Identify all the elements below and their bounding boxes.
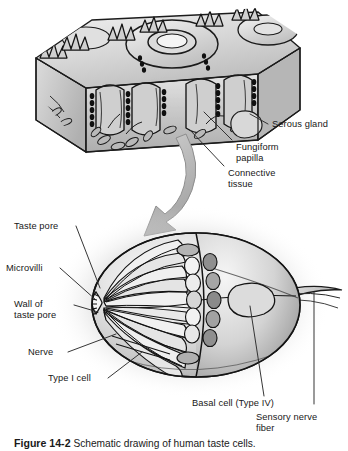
tissue-block-group — [36, 5, 315, 152]
label-microvilli: Microvilli — [6, 263, 43, 274]
label-wall-of-taste-pore: Wall of taste pore — [14, 299, 56, 320]
label-serous-gland: Serous gland — [272, 119, 328, 130]
caption-text: Schematic drawing of human taste cells. — [73, 438, 255, 449]
label-sensory-nerve-fiber: Sensory nerve fiber — [256, 412, 317, 433]
label-fungiform-papilla: Fungiform papilla — [236, 142, 279, 163]
label-taste-pore: Taste pore — [14, 221, 58, 232]
figure-root: Serous gland Fungiform papilla Connectiv… — [0, 0, 348, 451]
label-nerve: Nerve — [28, 347, 53, 358]
label-connective-tissue: Connective tissue — [228, 168, 275, 189]
label-type-i-cell: Type I cell — [48, 373, 91, 384]
label-basal-cell: Basal cell (Type IV) — [192, 398, 274, 409]
figure-caption: Figure 14-2 Schematic drawing of human t… — [14, 437, 344, 451]
taste-bud-group — [50, 206, 342, 398]
caption-number: Figure 14-2 — [14, 437, 71, 449]
